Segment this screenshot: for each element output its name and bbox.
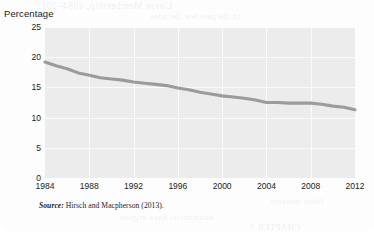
x-axis-tick-label: 1992 [114, 182, 154, 191]
bleed-through-text: in the past few decades [150, 11, 240, 21]
plot-area [45, 27, 355, 178]
vertical-gridline [355, 27, 356, 178]
figure-panel: Union Membership, 1984–2012 in the past … [0, 0, 374, 232]
x-axis-tick-label: 1984 [25, 182, 65, 191]
bleed-through-text: labor markets [270, 196, 323, 206]
x-axis-tick-label: 2004 [246, 182, 286, 191]
data-line-svg [45, 27, 355, 178]
source-citation: Hirsch and Macpherson (2013). [66, 201, 164, 210]
series-line-union-membership [45, 62, 355, 110]
bleed-through-text: Union Membership, 1984–2012 [36, 0, 172, 11]
y-axis-tick-label: 25 [11, 23, 41, 32]
bleed-through-text: economists have argued [120, 212, 213, 222]
y-axis-tick-label: 15 [11, 83, 41, 92]
x-axis-tick-label: 1988 [69, 182, 109, 191]
y-axis-tick-label: 10 [11, 114, 41, 123]
y-axis-title: Percentage [4, 8, 54, 19]
x-axis-tick-label: 2008 [291, 182, 331, 191]
x-axis-tick-label: 2012 [335, 182, 374, 191]
y-axis-tick-label: 5 [11, 144, 41, 153]
y-axis-tick-label: 20 [11, 53, 41, 62]
bleed-through-text: CHAPTER 9 [250, 222, 300, 232]
source-note: Source: Hirsch and Macpherson (2013). [39, 201, 164, 210]
x-axis-tick-label: 1996 [158, 182, 198, 191]
x-axis-tick-label: 2000 [202, 182, 242, 191]
source-label: Source: [39, 201, 64, 210]
